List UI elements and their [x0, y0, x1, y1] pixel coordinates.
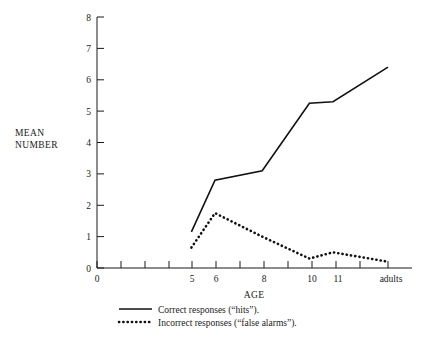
x-tick-label-adults: adults [380, 274, 403, 284]
x-tick-label-5: 5 [190, 274, 195, 284]
y-tick-label-2: 2 [86, 201, 91, 211]
y-axis-title-line1: MEAN [15, 128, 45, 138]
x-tick-label-6: 6 [214, 274, 219, 284]
y-tick-label-1: 1 [86, 232, 91, 242]
y-tick-label-5: 5 [86, 107, 91, 117]
y-tick-labels: 8 7 6 5 4 3 2 1 0 [86, 13, 91, 274]
x-axis-title: AGE [244, 290, 265, 300]
x-tick-label-0: 0 [95, 274, 100, 284]
y-tick-label-8: 8 [86, 13, 91, 23]
y-tick-label-4: 4 [86, 138, 91, 148]
legend-label-correct-responses: Correct responses (“hits”). [158, 305, 259, 316]
x-tick-label-10: 10 [307, 274, 317, 284]
chart-background [0, 0, 432, 337]
y-axis-title-line2: NUMBER [15, 140, 58, 150]
y-tick-label-3: 3 [86, 169, 91, 179]
y-tick-label-6: 6 [86, 75, 91, 85]
y-tick-label-0: 0 [86, 264, 91, 274]
x-tick-label-8: 8 [262, 274, 267, 284]
x-tick-label-11: 11 [333, 274, 342, 284]
chart-figure: 8 7 6 5 4 3 2 1 0 MEAN NUMBER [0, 0, 432, 337]
y-tick-label-7: 7 [86, 44, 91, 54]
legend-label-incorrect-responses: Incorrect responses (“false alarms”). [158, 318, 297, 329]
